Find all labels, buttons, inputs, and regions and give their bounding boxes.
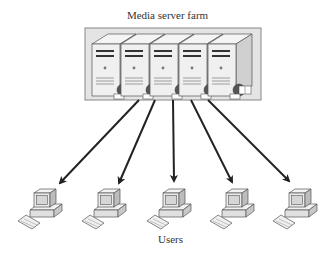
- arrow-to-user-4: [191, 100, 232, 182]
- user-computer-icon: [273, 189, 317, 229]
- user-computer-icon: [147, 189, 191, 229]
- folder-icon: [239, 86, 251, 94]
- arrow-to-user-5: [208, 100, 289, 181]
- users-label: Users: [0, 233, 335, 245]
- diagram-canvas: [0, 0, 335, 256]
- user-computer-icon: [18, 189, 62, 229]
- arrow-to-user-2: [119, 100, 155, 183]
- user-computer-icon: [82, 189, 126, 229]
- user-computer-icon: [210, 189, 254, 229]
- arrow-to-user-3: [173, 100, 174, 181]
- arrow-to-user-1: [60, 100, 139, 183]
